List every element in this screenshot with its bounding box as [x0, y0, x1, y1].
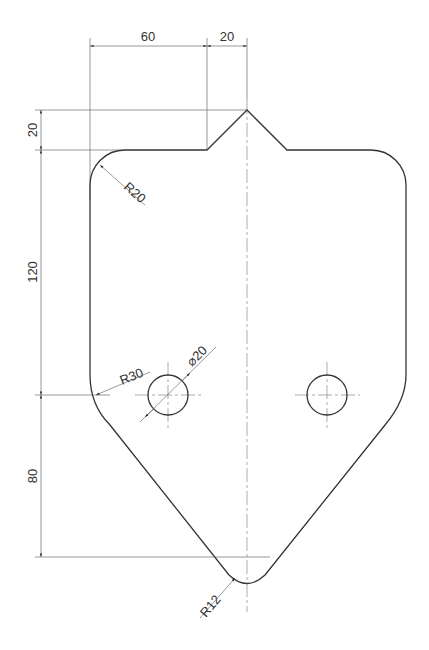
radius-r20-leader: R20	[100, 165, 149, 206]
technical-drawing: 60 20 20 120 80 R20 R30 ⌀20 R12	[0, 0, 429, 650]
center-lines	[135, 100, 360, 612]
dim-text-120: 120	[25, 261, 40, 283]
diameter-leader: ⌀20	[140, 343, 216, 422]
dim-text-r30: R30	[118, 365, 146, 388]
dim-text-80: 80	[25, 469, 40, 483]
radius-r12-leader: R12	[197, 578, 235, 620]
dim-text-60: 60	[141, 29, 155, 44]
dim-text-20-left: 20	[25, 123, 40, 137]
dim-text-r12: R12	[197, 592, 224, 620]
dimension-20-top: 20	[207, 29, 247, 46]
dim-text-r20: R20	[121, 179, 149, 206]
dimension-20-left: 20	[25, 110, 41, 150]
radius-r30-leader: R30	[96, 365, 150, 395]
dim-text-diameter: ⌀20	[184, 343, 210, 369]
part-outline	[90, 110, 406, 584]
dimension-80: 80	[25, 395, 41, 557]
dimension-120: 120	[25, 150, 41, 395]
dim-text-20-top: 20	[220, 29, 234, 44]
dimension-60: 60	[90, 29, 207, 46]
